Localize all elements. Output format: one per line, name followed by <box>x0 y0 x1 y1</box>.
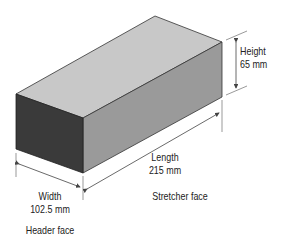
header-face-label: Header face <box>20 224 80 237</box>
width-label: Width 102.5 mm <box>25 190 76 216</box>
length-label: Length 215 mm <box>140 151 191 177</box>
length-value-text: 215 mm <box>140 164 191 177</box>
height-label-text: Height <box>240 45 274 58</box>
height-value-text: 65 mm <box>240 58 274 71</box>
length-label-text: Length <box>140 151 191 164</box>
width-value-text: 102.5 mm <box>25 203 76 216</box>
height-label: Height 65 mm <box>240 45 274 71</box>
stretcher-face-label: Stretcher face <box>146 190 214 203</box>
width-label-text: Width <box>25 190 76 203</box>
